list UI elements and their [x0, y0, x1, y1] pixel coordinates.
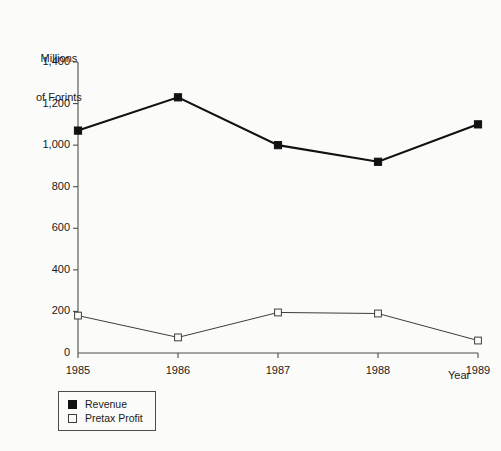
data-point-marker	[475, 337, 482, 344]
data-series	[74, 94, 481, 344]
data-point-marker	[74, 127, 81, 134]
series-line-0	[78, 97, 478, 161]
y-axis-tick-label: 1,400	[26, 55, 70, 67]
data-point-marker	[175, 334, 182, 341]
x-axis-tick-label: 1987	[250, 364, 306, 376]
filled-square-icon	[68, 400, 77, 409]
y-axis-tick-label: 200	[26, 304, 70, 316]
data-point-marker	[275, 309, 282, 316]
line-chart: Millions of Forints 02004006008001,0001,…	[0, 0, 501, 451]
data-point-marker	[375, 310, 382, 317]
x-axis-tick-label: 1985	[50, 364, 106, 376]
legend-item-label: Revenue	[85, 398, 127, 410]
y-axis-tick-label: 800	[26, 180, 70, 192]
chart-legend: RevenuePretax Profit	[58, 391, 156, 431]
x-axis-tick-label: 1986	[150, 364, 206, 376]
y-axis-tick-label: 400	[26, 263, 70, 275]
data-point-marker	[274, 142, 281, 149]
legend-item-label: Pretax Profit	[85, 412, 143, 424]
data-point-marker	[374, 158, 381, 165]
legend-item: Revenue	[68, 397, 143, 411]
y-axis-tick-label: 1,000	[26, 138, 70, 150]
data-point-marker	[474, 121, 481, 128]
data-point-marker	[174, 94, 181, 101]
plot-area	[0, 0, 501, 451]
x-axis-title: Year	[448, 369, 470, 382]
open-square-icon	[68, 414, 77, 423]
y-axis-tick-label: 0	[26, 346, 70, 358]
legend-item: Pretax Profit	[68, 411, 143, 425]
series-line-1	[78, 312, 478, 340]
y-axis-tick-label: 600	[26, 221, 70, 233]
y-axis-tick-label: 1,200	[26, 97, 70, 109]
x-axis-tick-label: 1988	[350, 364, 406, 376]
data-point-marker	[75, 312, 82, 319]
